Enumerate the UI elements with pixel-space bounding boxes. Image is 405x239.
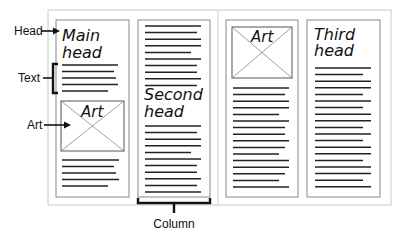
callout-column-label: Column <box>153 217 194 231</box>
column-1-art-label: Art <box>80 103 104 121</box>
column-2: Second head <box>138 20 210 197</box>
callout-text-label: Text <box>18 71 41 85</box>
column-3: Art <box>226 20 298 197</box>
callout-head-label: Head <box>14 24 43 38</box>
callout-art-label: Art <box>27 118 43 132</box>
layout-diagram: Main head Art Second head Art Third head… <box>0 0 405 239</box>
second-head-line-2: head <box>144 102 185 121</box>
third-head-line-2: head <box>314 41 355 60</box>
column-4: Third head <box>307 20 380 197</box>
main-head-line-2: head <box>62 43 103 62</box>
column-1: Main head Art <box>56 20 129 197</box>
column-3-art-label: Art <box>250 28 274 46</box>
